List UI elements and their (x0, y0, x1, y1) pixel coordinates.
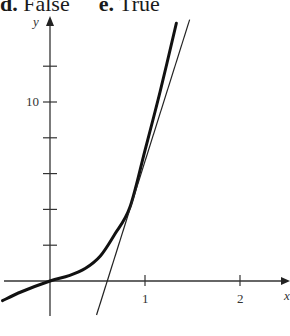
function-curve (3, 23, 177, 300)
tangent-line (97, 20, 190, 315)
x-tick-label: 1 (142, 291, 149, 306)
x-axis-label: x (283, 288, 290, 303)
graph: yx1210 (0, 0, 290, 336)
y-axis-arrow-icon (46, 16, 54, 26)
x-axis-arrow-icon (281, 277, 290, 285)
x-tick-label: 2 (237, 291, 244, 306)
y-tick-label: 10 (26, 94, 39, 109)
y-axis-label: y (31, 14, 39, 29)
